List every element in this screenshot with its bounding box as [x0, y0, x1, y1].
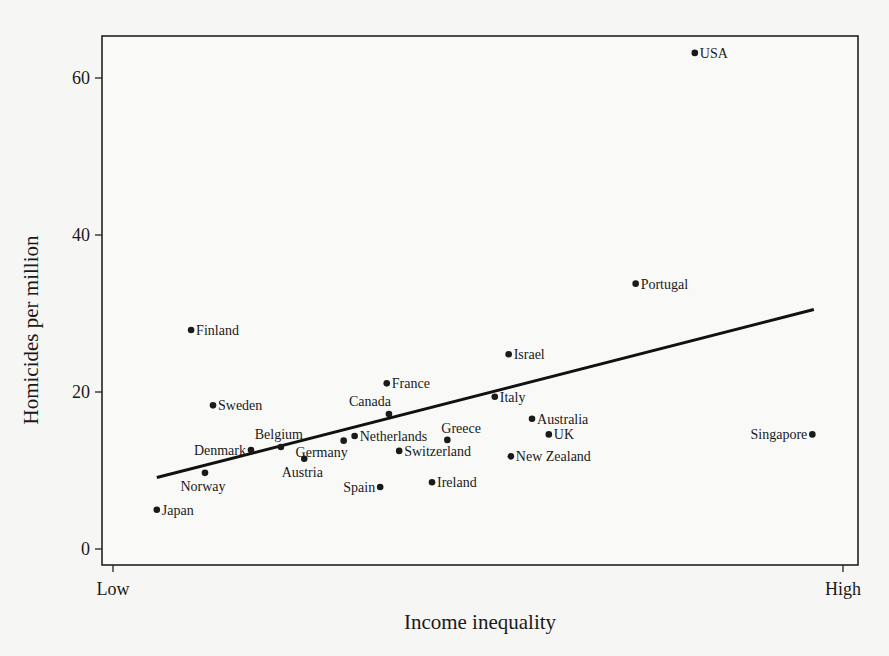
data-point: Denmark	[194, 443, 254, 458]
data-point: Singapore	[751, 427, 816, 442]
point-label: Denmark	[194, 443, 246, 458]
point-marker	[491, 393, 498, 400]
point-label: Sweden	[218, 398, 262, 413]
point-label: Greece	[441, 421, 481, 436]
point-marker	[444, 437, 451, 444]
x-tick-label: Low	[97, 579, 130, 599]
data-point: New Zealand	[508, 449, 591, 464]
point-label: France	[392, 376, 430, 391]
point-marker	[396, 448, 403, 455]
point-marker	[278, 444, 285, 451]
point-label: Ireland	[437, 475, 477, 490]
point-marker	[383, 380, 390, 387]
point-label: Israel	[514, 347, 545, 362]
point-label: Singapore	[751, 427, 808, 442]
point-marker	[248, 447, 255, 454]
point-label: Belgium	[255, 427, 303, 442]
x-axis-ticks: LowHigh	[97, 565, 862, 599]
y-tick-label: 20	[72, 382, 90, 402]
y-axis-title: Homicides per million	[19, 235, 43, 424]
data-point: Netherlands	[351, 429, 427, 444]
point-label: New Zealand	[516, 449, 591, 464]
point-marker	[692, 50, 699, 57]
y-tick-label: 60	[72, 68, 90, 88]
scatter-chart: 0204060 LowHigh USAPortugalFinlandIsrael…	[0, 0, 889, 656]
x-tick-label: High	[825, 579, 861, 599]
point-marker	[546, 431, 553, 438]
point-label: Portugal	[641, 277, 689, 292]
point-label: Italy	[500, 390, 526, 405]
point-marker	[351, 433, 358, 440]
point-marker	[809, 431, 816, 438]
point-label: Switzerland	[404, 444, 471, 459]
point-marker	[301, 455, 308, 462]
data-point: Portugal	[632, 277, 688, 292]
point-label: Finland	[196, 323, 239, 338]
point-label: Norway	[180, 479, 225, 494]
data-point: Sweden	[210, 398, 263, 413]
point-label: Netherlands	[360, 429, 428, 444]
point-marker	[202, 470, 209, 477]
data-point: Switzerland	[396, 444, 471, 459]
point-marker	[377, 484, 384, 491]
data-point: Australia	[529, 412, 589, 427]
point-label: UK	[554, 427, 574, 442]
point-marker	[429, 479, 436, 486]
point-label: Japan	[162, 503, 194, 518]
point-label: Australia	[537, 412, 589, 427]
point-marker	[154, 506, 161, 513]
point-marker	[210, 402, 217, 409]
point-label: Canada	[349, 394, 392, 409]
point-marker	[529, 415, 536, 422]
x-axis-title: Income inequality	[404, 610, 557, 634]
data-point: Finland	[188, 323, 239, 338]
point-marker	[188, 327, 195, 334]
y-tick-label: 0	[81, 539, 90, 559]
point-marker	[386, 411, 393, 418]
point-marker	[508, 453, 515, 460]
point-marker	[340, 437, 347, 444]
point-label: USA	[700, 46, 729, 61]
point-marker	[632, 280, 639, 287]
point-label: Austria	[282, 465, 324, 480]
y-tick-label: 40	[72, 225, 90, 245]
point-label: Spain	[343, 480, 375, 495]
y-axis-ticks: 0204060	[72, 68, 102, 559]
point-marker	[505, 351, 512, 358]
